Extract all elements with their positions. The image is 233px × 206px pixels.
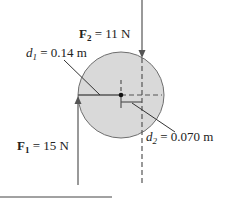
f2-label: F2 = 11 N (79, 26, 131, 43)
torque-diagram: F2 = 11 N d1 = 0.14 m d2 = 0.070 m F1 = … (0, 0, 233, 206)
d2-label: d2 = 0.070 m (146, 129, 213, 146)
f1-label: F1 = 15 N (17, 138, 70, 155)
d1-label: d1 = 0.14 m (26, 45, 87, 62)
pivot-point (119, 93, 124, 98)
